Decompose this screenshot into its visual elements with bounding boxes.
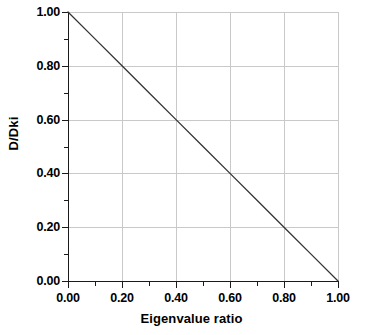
x-axis-title: Eigenvalue ratio [0,311,369,326]
chart-figure: 0.000.200.400.600.801.00 0.000.200.400.6… [0,0,369,335]
y-axis-title: D/Dki [6,99,21,169]
data-series-line [0,0,369,335]
